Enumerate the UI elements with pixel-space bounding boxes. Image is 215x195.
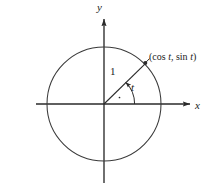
angle-vertex-dot	[119, 97, 121, 99]
point-label-mid: , sin	[171, 51, 190, 62]
point-label-close: )	[193, 51, 196, 62]
point-label-open: (cos	[149, 51, 168, 62]
x-axis-label: x	[195, 100, 200, 111]
radius-length-label: 1	[110, 66, 116, 77]
unit-circle-drawing	[0, 0, 215, 195]
point-coordinates-label: (cos t, sin t)	[149, 52, 196, 62]
y-axis-label: y	[97, 2, 102, 13]
unit-circle-figure: y x 1 t (cos t, sin t)	[0, 0, 215, 195]
angle-label: t	[131, 82, 134, 93]
